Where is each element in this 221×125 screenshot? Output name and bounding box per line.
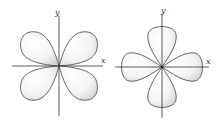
- dx2-y2-orbital: x y: [115, 6, 211, 118]
- lobe-lower-left: [21, 66, 59, 100]
- orbital-diagrams: x y x y: [0, 0, 221, 125]
- x-axis-label: x: [206, 57, 211, 66]
- y-axis-label: y: [160, 6, 166, 15]
- y-axis-label: y: [54, 8, 60, 17]
- nucleus-dot: [161, 66, 164, 69]
- lobe-upper-right: [59, 32, 97, 66]
- x-axis-label: x: [101, 56, 106, 65]
- dxy-orbital: x y: [12, 8, 106, 116]
- lobe-upper-left: [21, 32, 59, 66]
- lobe-lower-right: [59, 66, 97, 100]
